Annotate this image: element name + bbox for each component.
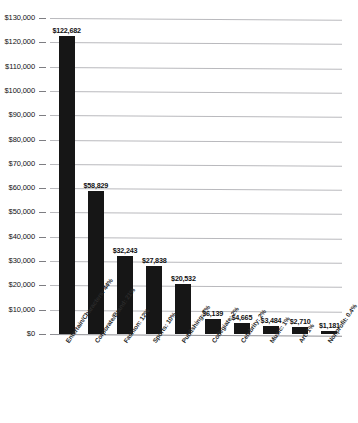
- y-tick-label: $90,000: [9, 111, 35, 119]
- y-tick-label: $30,000: [9, 257, 35, 265]
- y-tick-label: $130,000: [5, 14, 35, 22]
- y-tick-label: $20,000: [9, 281, 35, 289]
- bar-value-label: $32,243: [101, 246, 149, 255]
- y-tick-label: $120,000: [5, 38, 35, 46]
- x-axis-category-labels: Entertain/Characters: 44%Corporate/Brand…: [0, 334, 357, 423]
- y-tick-mark: [39, 164, 46, 165]
- bar-value-label: $122,682: [43, 26, 91, 35]
- y-tick-label: $110,000: [5, 63, 35, 71]
- y-tick-label: $40,000: [9, 233, 35, 241]
- y-tick-mark: [39, 67, 46, 68]
- y-tick-mark: [39, 140, 46, 141]
- bars-layer: $122,682$58,829$32,243$27,838$20,532$6,1…: [50, 18, 342, 334]
- y-tick-label: $70,000: [9, 160, 35, 168]
- bar-value-label: $58,829: [72, 181, 120, 190]
- y-tick-mark: [39, 91, 46, 92]
- bar-value-label: $27,838: [130, 256, 178, 265]
- y-tick-mark: [39, 42, 46, 43]
- bar-value-label: $20,532: [159, 274, 207, 283]
- y-tick-mark: [39, 237, 46, 238]
- y-tick-label: $10,000: [9, 306, 35, 314]
- y-tick-mark: [39, 115, 46, 116]
- y-tick-mark: [39, 18, 46, 19]
- y-tick-mark: [39, 188, 46, 189]
- y-tick-label: $60,000: [9, 184, 35, 192]
- y-tick-label: $100,000: [5, 87, 35, 95]
- y-tick-mark: [39, 212, 46, 213]
- y-tick-label: $80,000: [9, 136, 35, 144]
- y-tick-mark: [39, 310, 46, 311]
- y-tick-mark: [39, 261, 46, 262]
- y-tick-mark: [39, 285, 46, 286]
- y-axis-tick-labels: $130,000$120,000$110,000$100,000$90,000$…: [0, 18, 46, 334]
- y-tick-label: $50,000: [9, 208, 35, 216]
